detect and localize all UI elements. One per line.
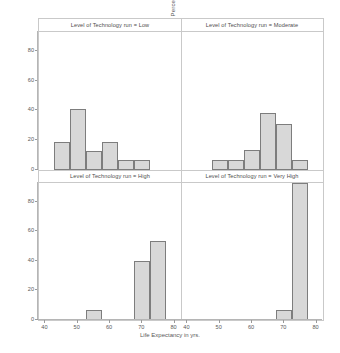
histogram-bar	[134, 160, 150, 169]
y-axis-line	[37, 31, 38, 169]
x-axis-tick-label: 60	[106, 324, 112, 330]
histogram-bar	[70, 109, 86, 170]
y-axis-tick-label: 20	[28, 286, 34, 292]
x-axis-tick-label: 50	[216, 324, 222, 330]
y-axis-tick-label: 20	[28, 136, 34, 142]
x-axis-tick-mark	[141, 320, 142, 323]
histogram-bar	[134, 261, 150, 320]
x-axis-tick-label: 50	[74, 324, 80, 330]
y-axis-tick-label: 0	[31, 316, 34, 322]
panel-plot-moderate	[181, 32, 323, 170]
y-axis-tick-label: 0	[31, 166, 34, 172]
x-axis-tick-label: 70	[280, 324, 286, 330]
x-axis-tick-label: 70	[138, 324, 144, 330]
x-axis-tick-mark	[219, 320, 220, 323]
histogram-bar	[292, 183, 308, 321]
histogram-bar	[244, 150, 260, 169]
histogram-bar	[292, 160, 308, 170]
x-axis-tick-mark	[44, 320, 45, 323]
y-axis-line	[37, 182, 38, 320]
x-axis-tick-mark	[316, 320, 317, 323]
panel-very_high: Level of Technology run = Very High	[181, 170, 323, 321]
panel-plot-high	[39, 183, 181, 321]
histogram-bar	[54, 142, 70, 169]
panel-high: Level of Technology run = High	[39, 170, 181, 321]
y-axis-tick-label: 60	[28, 77, 34, 83]
panel-plot-very_high	[181, 183, 323, 321]
panel-header-moderate: Level of Technology run = Moderate	[181, 19, 323, 32]
y-axis-tick-label: 40	[28, 257, 34, 263]
x-axis-tick-mark	[109, 320, 110, 323]
x-axis-tick-label: 80	[312, 324, 318, 330]
x-axis-tick-label: 40	[183, 324, 189, 330]
x-axis-tick-mark	[251, 320, 252, 323]
histogram-bar	[260, 113, 276, 169]
x-axis-tick-label: 80	[170, 324, 176, 330]
y-axis-label: Percent	[2, 0, 16, 14]
y-axis-tick-label: 80	[28, 198, 34, 204]
x-axis-tick-mark	[77, 320, 78, 323]
x-axis-tick-mark	[186, 320, 187, 323]
plot-area: Level of Technology run = LowLevel of Te…	[38, 18, 324, 321]
panel-plot-low	[39, 32, 181, 170]
panel-header-very_high: Level of Technology run = Very High	[181, 170, 323, 183]
panel-moderate: Level of Technology run = Moderate	[181, 19, 323, 170]
panel-header-low: Level of Technology run = Low	[39, 19, 181, 32]
y-axis-tick-label: 40	[28, 106, 34, 112]
panel-low: Level of Technology run = Low	[39, 19, 181, 170]
histogram-bar	[150, 241, 166, 320]
histogram-bar	[118, 160, 134, 169]
histogram-bar	[276, 124, 292, 170]
y-axis-tick-label: 80	[28, 47, 34, 53]
x-axis-label: Life Expectancy in yrs.	[0, 332, 340, 338]
histogram-panel-chart: Percent Life Expectancy in yrs. Level of…	[0, 0, 340, 353]
x-axis-tick-label: 40	[41, 324, 47, 330]
histogram-bar	[86, 151, 102, 169]
x-axis-tick-label: 60	[248, 324, 254, 330]
x-axis-tick-mark	[174, 320, 175, 323]
panel-header-high: Level of Technology run = High	[39, 170, 181, 183]
y-axis-tick-label: 60	[28, 227, 34, 233]
x-axis-tick-mark	[283, 320, 284, 323]
histogram-bar	[102, 142, 118, 169]
histogram-bar	[228, 160, 244, 170]
y-axis-tick-mark	[35, 169, 38, 170]
histogram-bar	[212, 160, 228, 170]
